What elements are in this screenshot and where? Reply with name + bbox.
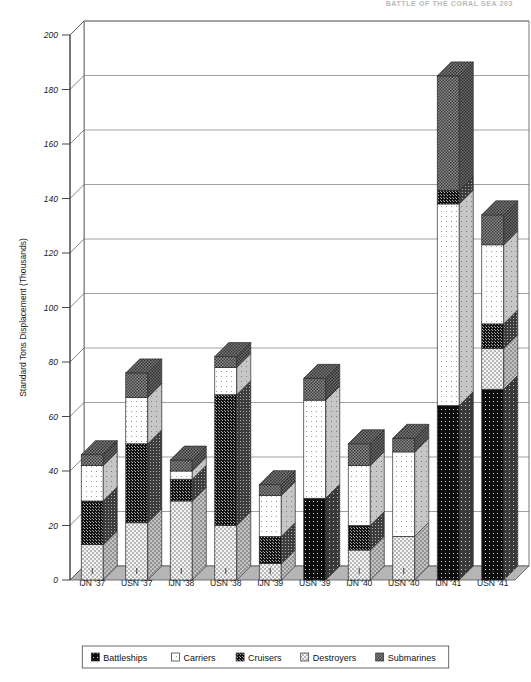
bar-segment-submarines (304, 378, 326, 400)
legend-label-destroyers: Destroyers (313, 653, 357, 663)
legend-swatch-cruisers (236, 653, 244, 661)
y-axis-tick-label: 60 (49, 412, 59, 422)
bar-usn40 (393, 424, 429, 580)
bar-segment-submarines (482, 215, 504, 245)
bar-segment-side-cruisers (148, 430, 162, 523)
x-axis-tick-label: IJN '39 (257, 578, 283, 588)
y-axis-tick-label: 120 (44, 248, 58, 258)
legend-swatch-carriers (172, 653, 180, 661)
y-axis-tick-label: 140 (44, 194, 58, 204)
bar-segment-cruisers (482, 324, 504, 349)
bar-segment-submarines (348, 444, 370, 466)
bar-segment-destroyers (81, 545, 103, 580)
bar-segment-submarines (215, 357, 237, 368)
bar-ijn41 (437, 62, 473, 580)
bar-segment-side-submarines (459, 62, 473, 190)
bar-segment-carriers (348, 466, 370, 526)
bar-segment-submarines (81, 455, 103, 466)
bar-segment-side-destroyers (192, 487, 206, 580)
legend-swatch-submarines (376, 653, 384, 661)
bar-segment-carriers (215, 367, 237, 394)
bar-segment-side-carriers (415, 438, 429, 536)
bar-segment-submarines (170, 460, 192, 471)
x-axis-tick-label: USN '37 (121, 578, 153, 588)
y-axis-title: Standard Tons Displacement (Thousands) (18, 238, 28, 397)
bar-usn39 (304, 364, 340, 580)
bar-usn37 (126, 359, 162, 580)
x-axis-tick-label: USN '39 (299, 578, 331, 588)
y-axis-tick-label: 200 (43, 30, 58, 40)
x-axis-tick-label: IJN '38 (168, 578, 194, 588)
x-axis-tick-label: USN '40 (388, 578, 420, 588)
bar-usn41 (482, 201, 518, 580)
legend-label-battleships: Battleships (103, 653, 148, 663)
x-axis-tick-label: USN '38 (210, 578, 242, 588)
bar-segment-carriers (259, 496, 281, 537)
y-axis-tick-label: 20 (48, 521, 59, 531)
bar-segment-destroyers (348, 550, 370, 580)
chart-page: BATTLE OF THE CORAL SEA 203 (0, 0, 531, 682)
stacked-column-chart: 020406080100120140160180200Standard Tons… (0, 0, 531, 682)
bar-segment-cruisers (259, 536, 281, 563)
legend-label-cruisers: Cruisers (248, 653, 282, 663)
bar-segment-side-carriers (326, 386, 340, 498)
bar-segment-battleships (304, 498, 326, 580)
bar-segment-submarines (393, 438, 415, 452)
bar-segment-destroyers (482, 348, 504, 389)
bar-segment-cruisers (348, 526, 370, 551)
y-axis-tick-label: 180 (44, 85, 58, 95)
bar-segment-cruisers (126, 444, 148, 523)
bar-segment-carriers (437, 204, 459, 406)
y-axis-tick-label: 40 (49, 466, 59, 476)
bar-segment-carriers (170, 471, 192, 479)
y-axis-tick-label: 0 (53, 575, 58, 585)
bar-segment-side-battleships (504, 375, 518, 580)
legend-swatch-destroyers (301, 653, 309, 661)
bar-ijn39 (259, 471, 295, 580)
bar-segment-submarines (259, 485, 281, 496)
chart-legend: BattleshipsCarriersCruisersDestroyersSub… (82, 646, 448, 668)
bar-segment-cruisers (81, 501, 103, 545)
bar-segment-battleships (482, 389, 504, 580)
bar-segment-carriers (126, 397, 148, 443)
x-axis-tick-label: IJN '40 (346, 578, 372, 588)
bar-segment-submarines (437, 76, 459, 190)
bar-segment-side-carriers (504, 231, 518, 324)
bar-usn38 (215, 343, 251, 580)
bar-segment-carriers (393, 452, 415, 536)
x-axis-tick-label: IJN '37 (79, 578, 105, 588)
x-axis-tick-label: IJN '41 (435, 578, 461, 588)
bar-segment-submarines (126, 373, 148, 398)
x-axis-tick-label: USN '41 (477, 578, 509, 588)
y-axis-tick-label: 100 (44, 303, 58, 313)
bar-segment-cruisers (170, 479, 192, 501)
bar-ijn37 (81, 441, 117, 580)
bar-segment-side-battleships (326, 484, 340, 580)
bar-segment-side-carriers (459, 190, 473, 406)
bar-segment-cruisers (437, 190, 459, 204)
bar-segment-carriers (304, 400, 326, 498)
bar-segment-carriers (482, 245, 504, 324)
legend-label-carriers: Carriers (184, 653, 217, 663)
bar-segment-side-cruisers (237, 381, 251, 526)
bar-segment-battleships (437, 406, 459, 580)
y-axis-tick-label: 160 (44, 139, 58, 149)
y-axis-tick-label: 80 (49, 357, 59, 367)
bar-segment-cruisers (215, 395, 237, 526)
legend-label-submarines: Submarines (388, 653, 437, 663)
bar-ijn40 (348, 430, 384, 580)
bar-segment-carriers (81, 466, 103, 501)
bar-ijn38 (170, 446, 206, 580)
legend-swatch-battleships (91, 653, 99, 661)
bar-segment-side-battleships (459, 392, 473, 580)
